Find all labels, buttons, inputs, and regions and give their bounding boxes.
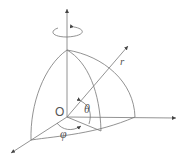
right-meridian [67, 50, 135, 117]
radius-label: r [120, 56, 124, 67]
projection-line [67, 117, 101, 131]
origin-label: O [55, 106, 64, 118]
depth-axis [11, 117, 67, 153]
horizontal-axis [67, 117, 176, 118]
equator-arc [31, 117, 135, 140]
phi-label: φ [60, 128, 67, 140]
spherical-coordinates-diagram: O r θ φ [0, 0, 186, 162]
rotation-arrow [53, 27, 82, 37]
diagram-svg [0, 0, 186, 162]
theta-label: θ [84, 103, 90, 115]
